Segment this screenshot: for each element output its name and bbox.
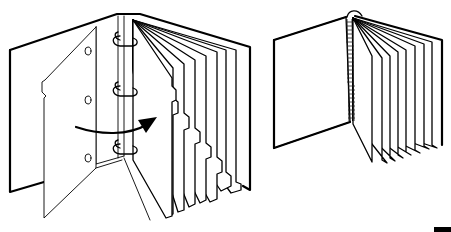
corner-mark	[434, 227, 451, 232]
spiral-book	[274, 11, 442, 163]
punch-hole-middle	[85, 96, 91, 104]
spiral-pages	[353, 18, 437, 163]
punch-hole-top	[85, 47, 91, 55]
spiral-left-cover	[274, 17, 350, 148]
punch-hole-bottom	[85, 154, 91, 162]
illustration	[0, 0, 451, 232]
ring-binder	[10, 14, 250, 220]
